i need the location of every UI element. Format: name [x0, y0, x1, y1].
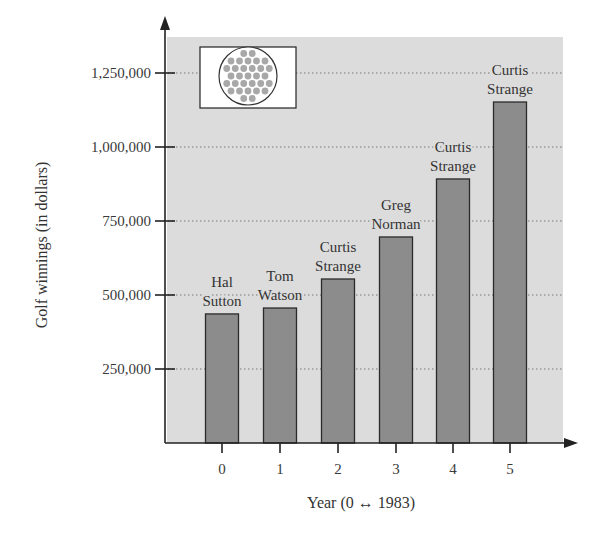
y-tick-label: 250,000	[102, 361, 151, 377]
bar-chart: HalSuttonTomWatsonCurtisStrangeGregNorma…	[0, 0, 603, 537]
y-ticks: 250,000500,000750,0001,000,0001,250,000	[91, 65, 175, 377]
bar	[206, 314, 239, 443]
y-tick-label: 750,000	[102, 213, 151, 229]
bar-label: Strange	[315, 258, 361, 274]
bar	[380, 237, 413, 443]
x-tick-label: 1	[276, 461, 284, 477]
x-axis-label: Year (0 ↔ 1983)	[307, 494, 415, 512]
bar-label: Curtis	[320, 239, 357, 255]
bar	[437, 179, 470, 443]
bar-label: Strange	[487, 81, 533, 97]
bar-label: Strange	[430, 158, 476, 174]
x-tick-label: 2	[334, 461, 342, 477]
x-axis-arrow-icon	[564, 438, 578, 448]
x-tick-label: 5	[506, 461, 514, 477]
bar-label: Tom	[266, 268, 294, 284]
x-tick-label: 3	[392, 461, 400, 477]
bar-label: Curtis	[435, 139, 472, 155]
bar-label: Watson	[258, 287, 303, 303]
y-tick-label: 500,000	[102, 287, 151, 303]
bar-label: Greg	[381, 197, 411, 213]
x-ticks: 012345	[218, 443, 514, 477]
golf-ball-icon	[200, 47, 296, 108]
bar-label: Curtis	[492, 62, 529, 78]
y-tick-label: 1,000,000	[91, 139, 151, 155]
bar	[264, 308, 297, 443]
bar-label: Norman	[371, 216, 421, 232]
bar-label: Sutton	[202, 293, 242, 309]
y-axis-label: Golf winnings (in dollars)	[33, 162, 51, 329]
bar	[494, 102, 527, 443]
x-tick-label: 0	[218, 461, 226, 477]
y-axis-arrow-icon	[160, 16, 170, 30]
y-tick-label: 1,250,000	[91, 65, 151, 81]
bar	[322, 279, 355, 443]
bar-label: Hal	[211, 274, 233, 290]
x-tick-label: 4	[449, 461, 457, 477]
